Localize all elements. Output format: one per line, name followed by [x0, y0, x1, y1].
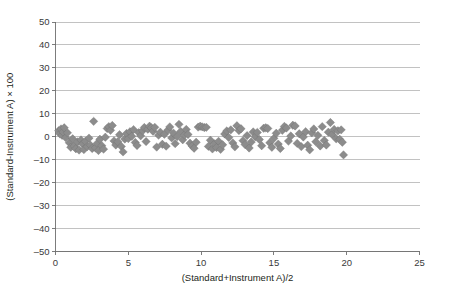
data-point-marker [339, 151, 347, 159]
scatter-plot-figure: 50403020100–10–20–30–40–500510152025(Sta… [0, 0, 450, 297]
data-point-marker [326, 118, 334, 126]
y-tick-label: 0 [44, 131, 49, 142]
data-point-marker [142, 137, 150, 145]
y-tick-label: 40 [39, 39, 50, 50]
x-tick-label: 10 [196, 257, 207, 268]
x-tick-label: 15 [269, 257, 280, 268]
y-tick-label: –30 [34, 200, 50, 211]
data-point-marker [318, 122, 326, 130]
y-tick-label: –20 [34, 177, 50, 188]
x-tick-label: 0 [53, 257, 58, 268]
y-tick-label: –40 [34, 223, 50, 234]
y-tick-label: –10 [34, 154, 50, 165]
x-axis-title: (Standard+Instrument A)/2 [182, 272, 294, 283]
x-tick-label: 25 [414, 257, 425, 268]
y-axis-title: (Standard-Instrument A) × 100 [4, 73, 15, 201]
data-point-marker [89, 117, 97, 125]
data-point-marker [175, 120, 183, 128]
y-tick-label: –50 [34, 246, 50, 257]
y-tick-label: 10 [39, 108, 50, 119]
y-tick-label: 50 [39, 16, 50, 27]
y-tick-label: 30 [39, 62, 50, 73]
x-tick-label: 20 [341, 257, 352, 268]
data-series [55, 117, 348, 159]
y-tick-label: 20 [39, 85, 50, 96]
x-tick-label: 5 [126, 257, 131, 268]
plot-canvas: 50403020100–10–20–30–40–500510152025(Sta… [0, 0, 450, 297]
